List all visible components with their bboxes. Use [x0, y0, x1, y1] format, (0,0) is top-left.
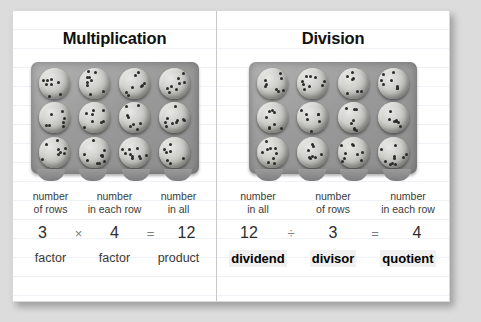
worksheet-page: Multiplication number of rows number in — [0, 0, 481, 322]
tray-feet — [255, 169, 411, 181]
chocolate-chip-icon — [265, 140, 268, 143]
chocolate-chip-icon — [100, 121, 103, 124]
division-array-image — [249, 62, 417, 174]
term-factor-2: factor — [83, 251, 147, 265]
cookie-icon — [119, 137, 150, 168]
cookie-tray-icon — [249, 62, 417, 174]
chocolate-chip-icon — [62, 125, 65, 128]
chocolate-chip-icon — [85, 112, 88, 115]
chocolate-chip-icon — [121, 148, 124, 151]
chocolate-chip-icon — [303, 88, 306, 91]
chocolate-chip-icon — [405, 153, 408, 156]
chocolate-chip-icon — [384, 160, 387, 163]
chocolate-chip-icon — [395, 120, 398, 123]
chocolate-chip-icon — [83, 153, 86, 156]
cookie-tray-icon — [31, 62, 199, 174]
multiplication-panel: Multiplication number of rows number in — [13, 11, 216, 301]
chocolate-chip-icon — [300, 109, 303, 112]
chocolate-chip-icon — [402, 156, 405, 159]
chocolate-chip-icon — [83, 126, 86, 129]
cookie-icon — [297, 68, 328, 99]
chocolate-chip-icon — [320, 153, 323, 156]
chocolate-chip-icon — [351, 71, 354, 74]
array-cell — [35, 101, 74, 134]
tray-feet — [37, 169, 193, 181]
chocolate-chip-icon — [267, 161, 270, 164]
cookie-icon — [159, 102, 190, 133]
array-cell — [115, 67, 154, 100]
cookie-icon — [39, 137, 70, 168]
chocolate-chip-icon — [165, 151, 168, 154]
multiplication-equation: 3 × 4 = 12 — [13, 224, 216, 242]
chocolate-chip-icon — [90, 79, 93, 82]
label-line2: in all — [147, 203, 211, 216]
label-number-of-rows: number of rows — [296, 190, 371, 215]
division-terms: dividend divisor quotient — [217, 251, 449, 266]
chocolate-chip-icon — [307, 149, 310, 152]
cookie-icon — [257, 102, 288, 133]
chocolate-chip-icon — [309, 75, 312, 78]
chocolate-chip-icon — [346, 75, 349, 78]
chocolate-chip-icon — [314, 76, 317, 79]
chocolate-chip-icon — [50, 113, 53, 116]
array-cell — [115, 136, 154, 169]
tray-foot — [340, 169, 368, 181]
chocolate-chip-icon — [355, 108, 358, 111]
chocolate-chip-icon — [63, 117, 66, 120]
cookie-icon — [79, 102, 110, 133]
chocolate-chip-icon — [137, 104, 140, 107]
term-dividend: dividend — [221, 251, 296, 266]
multiplication-heading: Multiplication — [63, 29, 167, 48]
label-line1: number — [371, 190, 446, 203]
chocolate-chip-icon — [137, 71, 140, 74]
chocolate-chip-icon — [91, 113, 94, 116]
array-cell — [293, 101, 332, 134]
array-cell — [293, 67, 332, 100]
chocolate-chip-icon — [261, 151, 264, 154]
cookie-icon — [338, 102, 369, 133]
chocolate-chip-icon — [102, 90, 105, 93]
chocolate-chip-icon — [340, 144, 343, 147]
tray-foot — [383, 169, 411, 181]
array-cell — [35, 136, 74, 169]
chocolate-chip-icon — [134, 74, 137, 77]
chocolate-chip-icon — [128, 148, 131, 151]
chocolate-chip-icon — [396, 85, 399, 88]
label-line2: in each row — [371, 203, 446, 216]
multiplication-terms: factor factor product — [13, 251, 216, 265]
chocolate-chip-icon — [91, 120, 94, 123]
chocolate-chip-icon — [64, 147, 67, 150]
term-dividend-text: dividend — [229, 250, 286, 267]
chocolate-chip-icon — [62, 121, 65, 124]
array-cell — [334, 136, 373, 169]
tray-foot — [122, 169, 150, 181]
chocolate-chip-icon — [272, 157, 275, 160]
cookie-icon — [119, 68, 150, 99]
chocolate-chip-icon — [48, 95, 51, 98]
chocolate-chip-icon — [92, 109, 95, 112]
array-cell — [293, 136, 332, 169]
chocolate-chip-icon — [103, 160, 106, 163]
chocolate-chip-icon — [282, 89, 285, 92]
chocolate-chip-icon — [41, 158, 44, 161]
chocolate-chip-icon — [389, 110, 392, 113]
chocolate-chip-icon — [178, 82, 181, 85]
chocolate-chip-icon — [140, 85, 143, 88]
chocolate-chip-icon — [139, 157, 142, 160]
chocolate-chip-icon — [125, 91, 128, 94]
chocolate-chip-icon — [312, 145, 315, 148]
chocolate-chip-icon — [174, 105, 177, 108]
cookie-icon — [79, 68, 110, 99]
chocolate-chip-icon — [346, 92, 349, 95]
chocolate-chip-icon — [264, 85, 267, 88]
label-line2: of rows — [19, 203, 83, 216]
chocolate-chip-icon — [305, 113, 308, 116]
chocolate-chip-icon — [310, 130, 313, 133]
chocolate-chip-icon — [301, 80, 304, 83]
cookie-icon — [39, 102, 70, 133]
array-cell — [374, 136, 413, 169]
equation-left-operand: 3 — [22, 224, 64, 242]
chocolate-chip-icon — [136, 128, 139, 131]
chocolate-chip-icon — [94, 71, 97, 74]
label-number-of-rows: number of rows — [19, 190, 83, 215]
